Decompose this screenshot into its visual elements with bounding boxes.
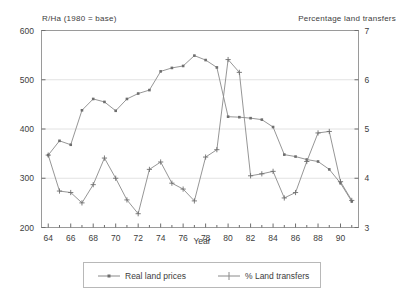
- legend-item-land-transfers: % Land transfers: [218, 269, 309, 283]
- data-point-marker: [328, 168, 331, 171]
- data-point-marker: [216, 66, 219, 69]
- data-series: [46, 54, 355, 216]
- data-point-marker: [249, 117, 252, 120]
- right-axis-tick-label: 6: [365, 75, 385, 85]
- data-point-marker: [227, 115, 230, 118]
- series-land-transfers: [46, 57, 355, 216]
- data-point-marker: [182, 65, 185, 68]
- data-point-marker: [338, 179, 343, 184]
- right-axis-tick-label: 5: [365, 124, 385, 134]
- x-axis-title: Year: [0, 236, 404, 246]
- data-point-marker: [327, 129, 332, 134]
- data-point-marker: [259, 171, 264, 176]
- data-point-marker: [294, 155, 297, 158]
- data-point-marker: [193, 54, 196, 57]
- legend: Real land prices % Land transfers: [83, 262, 321, 288]
- legend-marker-plus-icon: [218, 271, 240, 281]
- data-point-marker: [214, 147, 219, 152]
- data-point-marker: [261, 118, 264, 121]
- data-point-marker: [69, 143, 72, 146]
- series-line: [48, 60, 352, 214]
- data-point-marker: [103, 101, 106, 104]
- right-axis-tick-label: 4: [365, 173, 385, 183]
- data-point-marker: [114, 109, 117, 112]
- data-point-marker: [126, 98, 129, 101]
- data-point-marker: [203, 154, 208, 159]
- data-point-marker: [81, 109, 84, 112]
- data-point-marker: [147, 167, 152, 172]
- legend-label: % Land transfers: [245, 271, 309, 281]
- plot-area: [0, 0, 404, 302]
- left-axis-tick-label: 500: [6, 75, 34, 85]
- data-point-marker: [270, 169, 275, 174]
- data-point-marker: [92, 98, 95, 101]
- left-axis-tick-label: 200: [6, 223, 34, 233]
- data-point-marker: [58, 140, 61, 143]
- data-point-marker: [91, 182, 96, 187]
- data-point-marker: [137, 92, 140, 95]
- left-axis-tick-label: 400: [6, 124, 34, 134]
- data-point-marker: [248, 173, 253, 178]
- legend-marker-square-dot-icon: [98, 271, 120, 281]
- left-axis-tick-label: 300: [6, 173, 34, 183]
- gridlines: [42, 31, 359, 228]
- left-axis-tick-label: 600: [6, 26, 34, 36]
- data-point-marker: [272, 126, 275, 129]
- data-point-marker: [204, 59, 207, 62]
- right-axis-tick-label: 3: [365, 223, 385, 233]
- data-point-marker: [158, 159, 163, 164]
- legend-label: Real land prices: [125, 271, 186, 281]
- data-point-marker: [159, 70, 162, 73]
- data-point-marker: [283, 153, 286, 156]
- data-point-marker: [113, 176, 118, 181]
- data-point-marker: [169, 181, 174, 186]
- data-point-marker: [315, 130, 320, 135]
- land-price-chart: R/Ha (1980 = base) Percentage land trans…: [0, 0, 404, 302]
- data-point-marker: [282, 195, 287, 200]
- legend-item-real-land-prices: Real land prices: [98, 269, 186, 283]
- data-point-marker: [238, 116, 241, 119]
- data-point-marker: [148, 89, 151, 92]
- data-point-marker: [293, 190, 298, 195]
- data-point-marker: [57, 188, 62, 193]
- data-point-marker: [317, 160, 320, 163]
- right-axis-tick-label: 7: [365, 26, 385, 36]
- data-point-marker: [102, 155, 107, 160]
- data-point-marker: [171, 67, 174, 70]
